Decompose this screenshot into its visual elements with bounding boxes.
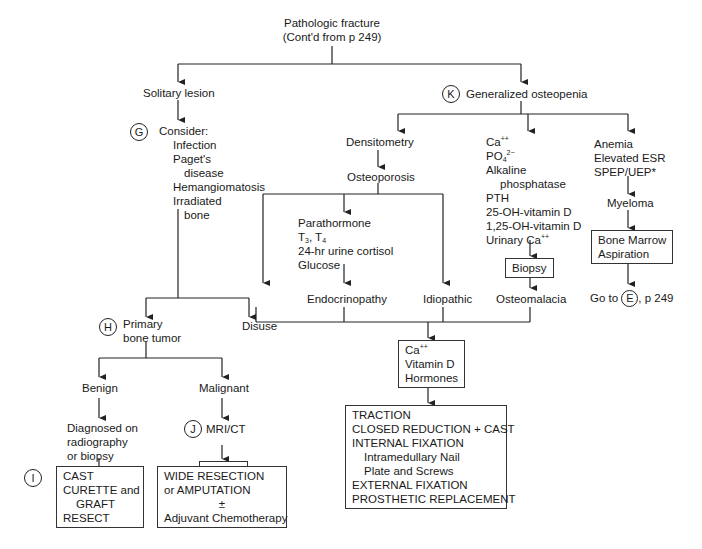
densitometry-node: Densitometry (346, 135, 414, 149)
marker-j-icon: J (184, 420, 202, 438)
diagnosed-line-3: or biopsy (67, 449, 138, 463)
benign-tx-cast: CAST (63, 469, 137, 483)
lab-ca-sup: ++ (501, 135, 509, 142)
test-parathormone: Parathormone (298, 216, 393, 230)
diagnosed-node: Diagnosed on radiography or biopsy (67, 421, 138, 463)
marker-e-icon: E (621, 290, 638, 307)
test-spep-uep: SPEP/UEP* (594, 165, 666, 179)
test-elevated-esr: Elevated ESR (594, 151, 666, 165)
test-glucose: Glucose (298, 258, 393, 272)
lab-phosphate: PO42− (486, 149, 581, 163)
diagnosed-line-1: Diagnosed on (67, 421, 138, 435)
test-t3-t4: T3, T4 (298, 230, 393, 244)
treatment-intramedullary-nail: Intramedullary Nail (352, 450, 500, 464)
consider-node: Consider: Infection Paget's disease Hema… (159, 124, 265, 222)
biopsy-osteomalacia-box: Biopsy (505, 258, 554, 278)
benign-tx-curette: CURETTE and (63, 483, 137, 497)
treatment-traction: TRACTION (352, 408, 500, 422)
treatment-plate-screws: Plate and Screws (352, 464, 500, 478)
disuse-node: Disuse (242, 319, 277, 333)
marker-g-icon: G (130, 123, 148, 141)
diagnosed-line-2: radiography (67, 435, 138, 449)
test-urine-cortisol: 24-hr urine cortisol (298, 244, 393, 258)
t4-label: , T (309, 231, 322, 243)
title-node: Pathologic fracture (Cont'd from p 249) (272, 16, 392, 44)
supplement-calcium: Ca++ (405, 343, 458, 357)
primary-bone-tumor-line-2: bone tumor (123, 331, 181, 345)
endocrinopathy-node: Endocrinopathy (307, 292, 387, 306)
treatment-external-fixation: EXTERNAL FIXATION (352, 478, 500, 492)
title-line-1: Pathologic fracture (272, 16, 392, 30)
lab-po-label: PO (486, 150, 503, 162)
marker-h-icon: H (99, 318, 117, 336)
supplement-hormones: Hormones (405, 371, 458, 385)
primary-bone-tumor-line-1: Primary (123, 317, 181, 331)
lab-po-sup: 2− (507, 149, 515, 156)
malignant-tx-chemotherapy: Adjuvant Chemotherapy (164, 511, 280, 525)
benign-node: Benign (82, 381, 118, 395)
generalized-osteopenia-node: Generalized osteopenia (466, 87, 587, 101)
lab-ca-label: Ca (486, 136, 501, 148)
lab-urinary-calcium: Urinary Ca++ (486, 233, 581, 247)
lab-alkaline: Alkaline (486, 163, 581, 177)
supplement-ca-sup: ++ (420, 343, 428, 350)
treatment-closed-reduction: CLOSED REDUCTION + CAST (352, 422, 500, 436)
benign-tx-graft: GRAFT (63, 497, 137, 511)
title-line-2: (Cont'd from p 249) (272, 30, 392, 44)
consider-item-pagets: Paget's (159, 152, 265, 166)
marker-k-icon: K (442, 85, 460, 103)
lab-pth: PTH (486, 191, 581, 205)
malignant-tx-amputation: or AMPUTATION (164, 483, 280, 497)
primary-bone-tumor-node: Primary bone tumor (123, 317, 181, 345)
bone-marrow-line-2: Aspiration (598, 247, 666, 261)
supplement-ca-label: Ca (405, 344, 420, 356)
malignant-tx-wide-resection: WIDE RESECTION (164, 469, 280, 483)
malignant-tx-plus-minus: ± (164, 497, 280, 511)
malignant-node: Malignant (199, 381, 249, 395)
consider-item-hemangiomatosis: Hemangiomatosis (159, 180, 265, 194)
lab-phosphatase: phosphatase (486, 177, 581, 191)
treatment-internal-fixation: INTERNAL FIXATION (352, 436, 500, 450)
consider-item-irradiated: Irradiated (159, 194, 265, 208)
lab-tests-node: Ca++ PO42− Alkaline phosphatase PTH 25-O… (486, 135, 581, 247)
test-anemia: Anemia (594, 137, 666, 151)
supplement-vitamin-d: Vitamin D (405, 357, 458, 371)
endocrine-tests-node: Parathormone T3, T4 24-hr urine cortisol… (298, 216, 393, 272)
goto-e-link[interactable]: Go to E, p 249 (590, 290, 674, 307)
osteoporosis-node: Osteoporosis (347, 170, 415, 184)
marker-i-icon: I (24, 469, 42, 487)
myeloma-node: Myeloma (607, 196, 654, 210)
lab-25-oh-vitamin-d: 25-OH-vitamin D (486, 205, 581, 219)
goto-suffix: , p 249 (638, 292, 673, 304)
lab-125-oh-vitamin-d: 1,25-OH-vitamin D (486, 219, 581, 233)
consider-item-pagets-disease: disease (159, 166, 265, 180)
idiopathic-node: Idiopathic (423, 292, 472, 306)
consider-item-infection: Infection (159, 138, 265, 152)
bone-marrow-line-1: Bone Marrow (598, 233, 666, 247)
mri-ct-node: MRI/CT (206, 422, 246, 436)
lab-po-sub: 4 (503, 156, 507, 163)
supplement-box: Ca++ Vitamin D Hormones (398, 340, 465, 388)
t3-label: T (298, 231, 305, 243)
benign-tx-resect: RESECT (63, 511, 137, 525)
consider-heading: Consider: (159, 124, 265, 138)
bone-marrow-aspiration-box: Bone Marrow Aspiration (591, 230, 673, 264)
malignant-treatment-box: WIDE RESECTION or AMPUTATION ± Adjuvant … (157, 466, 287, 528)
lab-urinary-label: Urinary Ca (486, 234, 541, 246)
treatment-prosthetic: PROSTHETIC REPLACEMENT (352, 492, 500, 506)
solitary-lesion-node: Solitary lesion (143, 86, 215, 100)
lab-calcium: Ca++ (486, 135, 581, 149)
myeloma-tests-node: Anemia Elevated ESR SPEP/UEP* (594, 137, 666, 179)
t4-sub: 4 (322, 237, 326, 244)
treatment-box: TRACTION CLOSED REDUCTION + CAST INTERNA… (345, 405, 507, 509)
goto-prefix: Go to (590, 292, 618, 304)
benign-treatment-box: CAST CURETTE and GRAFT RESECT (56, 466, 144, 528)
osteomalacia-node: Osteomalacia (496, 292, 566, 306)
consider-item-irradiated-bone: bone (159, 208, 265, 222)
lab-urinary-sup: ++ (541, 233, 549, 240)
